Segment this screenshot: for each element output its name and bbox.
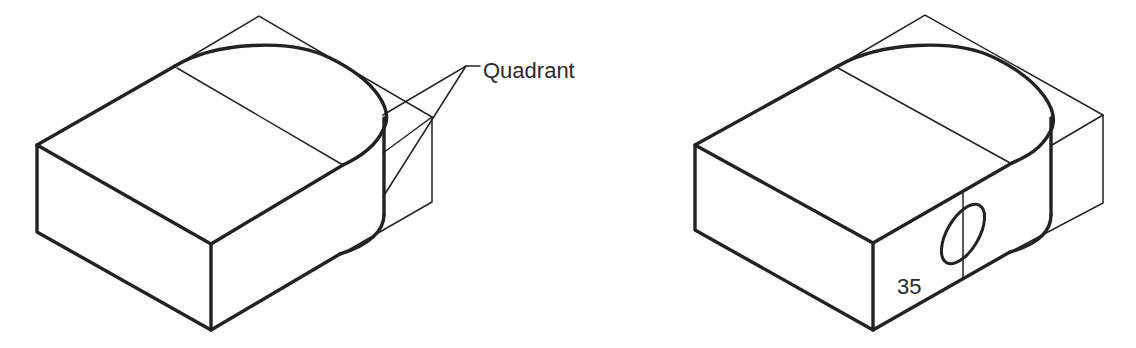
left-isometric-block: Quadrant — [37, 16, 575, 330]
center-line — [177, 68, 343, 165]
right-isometric-block: 35 — [695, 15, 1103, 330]
center-line — [838, 68, 1012, 164]
isometric-drawings: Quadrant 35 — [0, 0, 1136, 348]
quadrant-label: Quadrant — [483, 58, 575, 83]
dimension-label: 35 — [897, 274, 921, 299]
